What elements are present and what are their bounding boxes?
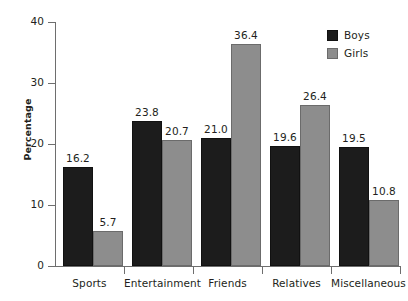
chart-legend: BoysGirls — [327, 27, 370, 63]
x-axis-line — [55, 266, 400, 267]
bar-girls-entertainment — [162, 140, 192, 266]
bar-girls-sports — [93, 231, 123, 266]
bar-boys-friends — [201, 138, 231, 266]
x-axis-category-label: Miscellaneous — [331, 277, 400, 289]
girls-swatch — [327, 48, 338, 59]
y-axis-tick-label: 10 — [18, 198, 44, 210]
boys-swatch — [327, 30, 338, 41]
y-axis-tick-label: 40 — [18, 15, 44, 27]
x-axis-tick — [331, 266, 332, 274]
legend-item-label: Girls — [344, 47, 368, 59]
bar-value-label: 16.2 — [55, 152, 101, 164]
bar-boys-entertainment — [132, 121, 162, 266]
bar-girls-friends — [231, 44, 261, 266]
bar-value-label: 26.4 — [292, 90, 338, 102]
legend-item-girls: Girls — [327, 45, 370, 61]
x-axis-tick — [400, 266, 401, 274]
y-axis-tick-label: 0 — [18, 259, 44, 271]
legend-item-label: Boys — [344, 29, 370, 41]
bar-value-label: 19.5 — [331, 132, 377, 144]
x-axis-tick — [262, 266, 263, 274]
bar-value-label: 36.4 — [223, 29, 269, 41]
y-axis-title: Percentage — [22, 90, 33, 170]
y-axis-tick-label: 30 — [18, 76, 44, 88]
bar-girls-relatives — [300, 105, 330, 266]
bar-value-label: 20.7 — [154, 125, 200, 137]
x-axis-category-label: Entertainment — [124, 277, 193, 289]
x-axis-category-label: Sports — [55, 277, 124, 289]
bar-boys-relatives — [270, 146, 300, 266]
bar-boys-miscellaneous — [339, 147, 369, 266]
legend-item-boys: Boys — [327, 27, 370, 43]
bar-value-label: 10.8 — [361, 185, 407, 197]
bar-girls-miscellaneous — [369, 200, 399, 266]
x-axis-category-label: Relatives — [262, 277, 331, 289]
x-axis-tick — [193, 266, 194, 274]
y-axis-tick-label: 20 — [18, 137, 44, 149]
bar-value-label: 5.7 — [85, 216, 131, 228]
x-axis-tick — [124, 266, 125, 274]
bar-chart: Percentage 010203040 SportsEntertainment… — [0, 0, 408, 301]
bar-value-label: 23.8 — [124, 106, 170, 118]
x-axis-category-label: Friends — [193, 277, 262, 289]
